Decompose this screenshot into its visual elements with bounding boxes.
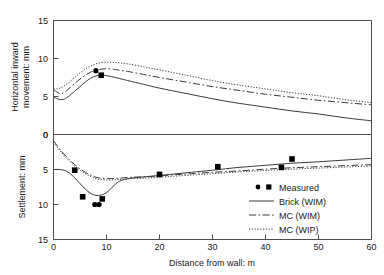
measured-point-square [157,172,163,178]
measured-point-square [98,72,104,78]
bottom-y-tick-5: 5 [43,165,48,175]
x-tick-0: 0 [51,242,56,252]
series-line-mc-wim [54,141,372,179]
legend-label-measured: Measured [279,183,319,193]
measured-point-square [279,165,285,171]
measured-point-square [215,164,221,170]
series-line-brick-wim [54,75,372,121]
chart-svg: 15 10 5 0 Horizontal inward movement: mm… [0,0,384,275]
bottom-y-tick-0: 0 [43,130,48,140]
top-panel-y-ticks [54,21,59,135]
measured-point-square [80,194,86,200]
measured-point-circle [93,68,98,73]
bottom-y-tick-15: 15 [38,235,48,245]
legend-label-mc-wim: MC (WIM) [279,211,320,221]
measured-point-square [72,167,78,173]
series-line-brick-wim [54,158,372,195]
top-panel-data [54,62,372,121]
top-y-tick-5: 5 [43,92,48,102]
measured-point-square [289,156,295,162]
bottom-y-title: Settlement: mm [17,155,27,218]
series-line-mc-wip [54,62,372,102]
measured-point-square [99,196,105,202]
top-y-title-line2: movement: mm [21,46,31,108]
measured-point-circle [96,202,101,207]
bottom-panel-y-axis-title: Settlement: mm [17,155,27,218]
top-y-tick-15: 15 [38,16,48,26]
x-tick-10: 10 [101,242,111,252]
measured-markers [72,156,295,207]
legend-marker-square [266,184,271,189]
top-y-title-line1: Horizontal inward [10,42,20,112]
x-axis-ticks [54,235,372,240]
bottom-y-tick-10: 10 [38,200,48,210]
bottom-panel-y-ticklabels: 0 5 10 15 [38,130,48,245]
x-tick-20: 20 [154,242,164,252]
legend-label-brick-wim: Brick (WIM) [279,197,326,207]
x-axis-title: Distance from wall: m [169,258,255,268]
x-tick-50: 50 [313,242,323,252]
bottom-panel-frame [54,135,372,240]
x-tick-40: 40 [260,242,270,252]
x-tick-30: 30 [207,242,217,252]
top-panel-y-axis-title: Horizontal inward movement: mm [10,42,31,112]
x-axis-ticklabels: 0 10 20 30 40 50 60 [51,242,377,252]
top-y-tick-10: 10 [38,54,48,64]
legend-marker-circle [256,185,261,190]
top-panel-y-ticklabels: 15 10 5 0 [38,16,48,140]
chart-legend: Measured Brick (WIM) MC (WIM) MC (WIP) [249,183,326,235]
legend-label-mc-wip: MC (WIP) [279,225,319,235]
x-tick-60: 60 [366,242,376,252]
bottom-panel-y-ticks [54,135,59,240]
chart-figure: 15 10 5 0 Horizontal inward movement: mm… [0,0,384,275]
